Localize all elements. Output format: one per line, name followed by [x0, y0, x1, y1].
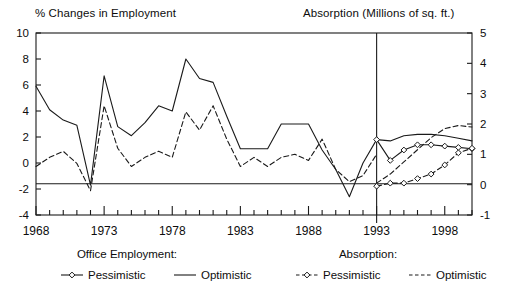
- legend-swatch-office-pessimistic-marker: [69, 272, 75, 278]
- series-marker-diamond: [428, 142, 434, 148]
- y-tick-label-left: 6: [23, 79, 29, 91]
- chart-figure: % Changes in Employment Absorption (Mill…: [0, 0, 510, 292]
- y-tick-label-right: -1: [480, 209, 490, 221]
- y-tick-label-left: 8: [23, 53, 29, 65]
- y-tick-label-left: 10: [16, 27, 29, 39]
- y-tick-label-right: 2: [480, 118, 486, 130]
- series-marker-diamond: [401, 180, 407, 186]
- x-tick-label: 1973: [91, 224, 118, 238]
- legend-swatch-absorption-pessimistic-marker: [304, 272, 310, 278]
- legend-label-office-pessimistic: Pessimistic: [88, 269, 146, 281]
- y-tick-label-left: 4: [23, 105, 30, 117]
- legend-label-absorption-pessimistic: Pessimistic: [323, 269, 381, 281]
- series-line: [36, 59, 377, 197]
- legend-layer: Office Employment:PessimisticOptimisticA…: [61, 248, 487, 281]
- series-marker-diamond: [415, 142, 421, 148]
- x-tick-label: 1983: [227, 224, 254, 238]
- legend-label-office-optimistic: Optimistic: [201, 269, 252, 281]
- series-marker-diamond: [442, 143, 448, 149]
- x-tick-label: 1968: [23, 224, 50, 238]
- y-tick-label-right: 5: [480, 27, 486, 39]
- data-series-layer: [36, 59, 475, 197]
- series-marker-diamond: [428, 171, 434, 177]
- y-tick-label-left: -2: [19, 183, 29, 195]
- y-tick-label-left: -4: [19, 209, 30, 221]
- series-line: [377, 134, 472, 141]
- series-marker-diamond: [374, 137, 380, 143]
- legend-label-absorption-optimistic: Optimistic: [436, 269, 487, 281]
- y-tick-label-left: 0: [23, 157, 29, 169]
- legend-group1-title: Office Employment:: [77, 248, 177, 260]
- y-tick-label-right: 0: [480, 179, 486, 191]
- y-tick-label-right: 3: [480, 88, 486, 100]
- series-line: [36, 106, 377, 191]
- series-marker-diamond: [469, 145, 475, 151]
- plot-canvas: -4-20246810-1012345196819731978198319881…: [0, 0, 510, 292]
- series-marker-diamond: [387, 180, 393, 186]
- series-marker-diamond: [415, 176, 421, 182]
- tick-label-layer: -4-20246810-1012345196819731978198319881…: [16, 27, 490, 238]
- legend-group2-title: Absorption:: [339, 248, 397, 260]
- x-tick-label: 1998: [431, 224, 458, 238]
- x-tick-label: 1993: [363, 224, 390, 238]
- x-tick-label: 1988: [295, 224, 322, 238]
- y-tick-label-right: 4: [480, 57, 487, 69]
- y-tick-label-left: 2: [23, 131, 29, 143]
- y-tick-label-right: 1: [480, 148, 486, 160]
- x-tick-label: 1978: [159, 224, 186, 238]
- reference-lines-layer: [36, 33, 472, 223]
